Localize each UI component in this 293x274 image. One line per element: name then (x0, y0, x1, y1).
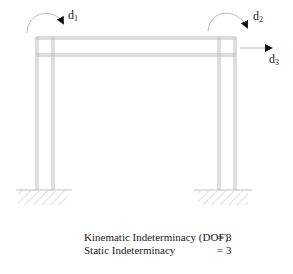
static-indeterminacy-label: Static Indeterminacy (84, 244, 175, 256)
label-d2-sub: 2 (259, 15, 263, 24)
label-d1: d1 (68, 9, 78, 23)
rotation-arrow-d1 (27, 13, 63, 33)
kinematic-indeterminacy-label: Kinematic Indeterminacy (DOF) (84, 231, 228, 243)
left-column (36, 37, 54, 190)
label-d2: d2 (253, 10, 263, 24)
kinematic-indeterminacy-value: = 3 (217, 231, 231, 243)
right-column (218, 37, 236, 190)
left-fixed-support (16, 190, 72, 205)
label-d3-sub: 3 (275, 58, 279, 67)
static-indeterminacy-value: = 3 (217, 244, 231, 256)
right-fixed-support (194, 190, 252, 205)
label-d1-sub: 1 (74, 14, 78, 23)
rotation-arrow-d2 (208, 13, 247, 31)
label-d3: d3 (269, 53, 279, 67)
beam (36, 37, 236, 56)
